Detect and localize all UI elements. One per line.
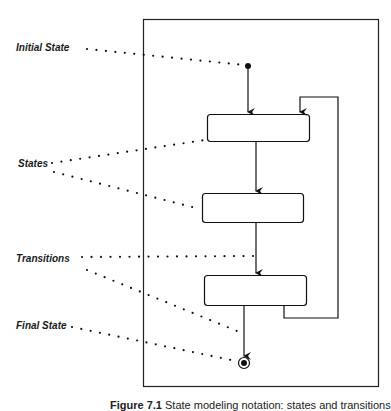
caption-prefix: Figure 7.1	[110, 399, 162, 411]
state-1	[208, 115, 310, 142]
leader-states-1	[52, 140, 205, 163]
final-state-node	[239, 358, 250, 369]
caption-text: State modeling notation: states and tran…	[165, 399, 391, 411]
state-3	[205, 276, 307, 306]
leader-initial-state	[87, 49, 244, 65]
annotation-initial-state: Initial State	[16, 42, 69, 53]
leader-transitions-1	[82, 256, 255, 257]
state-2	[203, 194, 304, 223]
annotation-transitions: Transitions	[16, 253, 70, 264]
leader-final-state	[72, 327, 236, 361]
annotation-states: States	[18, 158, 48, 169]
leader-states-2	[54, 172, 200, 209]
annotation-final-state: Final State	[16, 320, 67, 331]
figure-caption: Figure 7.1 State modeling notation: stat…	[110, 399, 391, 411]
